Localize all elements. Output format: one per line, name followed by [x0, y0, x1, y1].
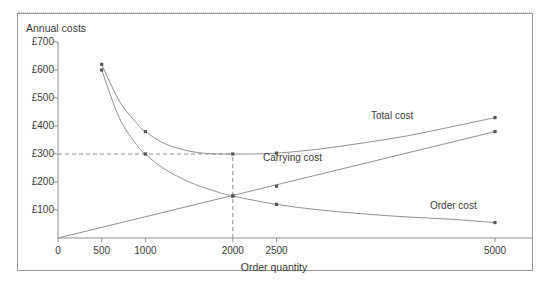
data-point-marker [275, 185, 278, 188]
data-point-marker [493, 116, 496, 119]
y-tick-label: £400 [18, 120, 54, 131]
x-tick-label: 1000 [125, 245, 165, 256]
data-point-marker [275, 203, 278, 206]
x-tick-label: 2500 [257, 245, 297, 256]
y-tick-label: £600 [18, 64, 54, 75]
series-label-total-cost: Total cost [371, 110, 413, 121]
x-tick-label: 5000 [475, 245, 515, 256]
data-point-marker [231, 152, 234, 155]
data-point-marker [493, 130, 496, 133]
y-tick-label: £200 [18, 176, 54, 187]
data-point-marker [493, 221, 496, 224]
y-tick-label: £700 [18, 36, 54, 47]
y-tick-label: £100 [18, 204, 54, 215]
series-label-order-cost: Order cost [430, 200, 477, 211]
x-tick-label: 500 [82, 245, 122, 256]
data-point-marker [100, 63, 103, 66]
y-tick-label: £300 [18, 148, 54, 159]
series-line-total-cost [102, 64, 495, 154]
data-point-marker [231, 194, 234, 197]
series-label-carrying-cost: Carrying cost [263, 152, 322, 163]
x-tick-label: 0 [38, 245, 78, 256]
data-point-marker [144, 152, 147, 155]
y-tick-label: £500 [18, 92, 54, 103]
data-point-marker [100, 68, 103, 71]
x-tick-label: 2000 [213, 245, 253, 256]
data-point-marker [144, 130, 147, 133]
